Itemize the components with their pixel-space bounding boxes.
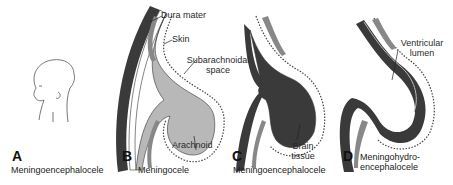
label-skin: Skin xyxy=(172,34,190,44)
label-subarachnoidal-space: Subarachnoidal space xyxy=(178,55,258,75)
label-dura-mater: Dura mater xyxy=(161,10,206,20)
panel-letter-b: B xyxy=(122,148,132,164)
caption-d: Meningohydro- encephalocele xyxy=(360,152,420,172)
caption-b: Meningocele xyxy=(138,165,189,175)
panel-letter-a: A xyxy=(12,148,22,164)
caption-d-line2: encephalocele xyxy=(360,162,420,172)
label-ventricular-line1: Ventricular xyxy=(393,38,451,48)
label-subarachnoidal-line2: space xyxy=(178,65,258,75)
label-brain-line2: tissue xyxy=(285,151,321,161)
label-brain-line1: Brain xyxy=(285,141,321,151)
panel-letter-c: C xyxy=(232,148,242,164)
infant-profile-illustration xyxy=(34,60,75,122)
panel-letter-d: D xyxy=(343,148,353,164)
label-arachnoid: Arachnoid xyxy=(172,140,213,150)
caption-a: Meningoencephalocele xyxy=(11,165,104,175)
label-ventricular-line2: lumen xyxy=(393,48,451,58)
caption-c: Meningoencephalocele xyxy=(233,165,326,175)
label-ventricular-lumen: Ventricular lumen xyxy=(393,38,451,58)
label-brain-tissue: Brain tissue xyxy=(285,141,321,161)
label-subarachnoidal-line1: Subarachnoidal xyxy=(178,55,258,65)
caption-d-line1: Meningohydro- xyxy=(360,152,420,162)
